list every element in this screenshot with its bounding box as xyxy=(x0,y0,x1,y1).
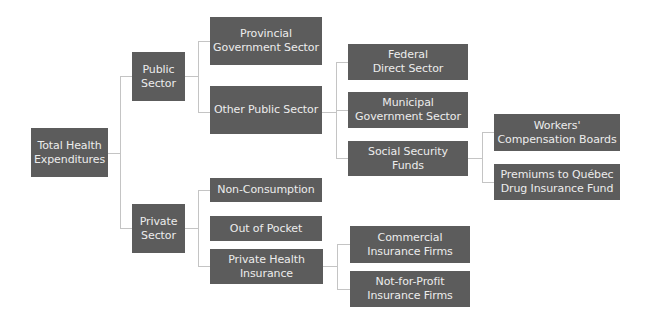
node-municipal-government-sector: Municipal Government Sector xyxy=(348,92,468,128)
node-label: Total Health Expenditures xyxy=(34,139,105,167)
node-premiums-quebec-drug-insurance-fund: Premiums to Québec Drug Insurance Fund xyxy=(494,164,620,200)
connector xyxy=(198,41,210,42)
node-social-security-funds: Social Security Funds xyxy=(348,141,468,176)
node-label: Commercial Insurance Firms xyxy=(367,231,452,259)
node-workers-compensation-boards: Workers' Compensation Boards xyxy=(494,114,620,151)
connector xyxy=(337,244,338,290)
node-label: Federal Direct Sector xyxy=(373,48,444,76)
node-label: Municipal Government Sector xyxy=(355,96,461,124)
connector xyxy=(322,112,337,113)
node-label: Provincial Government Sector xyxy=(213,27,319,55)
connector xyxy=(337,244,350,245)
connector xyxy=(198,266,210,267)
connector xyxy=(337,289,350,290)
connector xyxy=(185,228,199,229)
node-other-public-sector: Other Public Sector xyxy=(210,86,322,134)
node-label: Other Public Sector xyxy=(214,103,318,117)
connector xyxy=(120,76,121,229)
node-label: Premiums to Québec Drug Insurance Fund xyxy=(500,168,613,196)
node-private-health-insurance: Private Health Insurance xyxy=(210,249,323,284)
node-label: Out of Pocket xyxy=(230,222,302,236)
connector xyxy=(120,228,132,229)
connector xyxy=(336,110,348,111)
health-expenditure-tree-diagram: Total Health Expenditures Public Sector … xyxy=(0,0,649,323)
node-label: Private Sector xyxy=(140,215,178,243)
node-label: Public Sector xyxy=(141,63,176,91)
node-label: Workers' Compensation Boards xyxy=(497,119,616,147)
connector xyxy=(120,76,132,77)
connector xyxy=(482,182,494,183)
node-label: Non-Consumption xyxy=(217,183,314,197)
node-out-of-pocket: Out of Pocket xyxy=(210,216,322,241)
node-label: Not-for-Profit Insurance Firms xyxy=(367,275,452,303)
node-label: Social Security Funds xyxy=(351,145,465,173)
connector xyxy=(198,190,210,191)
node-public-sector: Public Sector xyxy=(132,52,185,101)
node-not-for-profit-insurance-firms: Not-for-Profit Insurance Firms xyxy=(350,271,470,307)
connector xyxy=(198,112,210,113)
connector xyxy=(482,132,483,183)
connector xyxy=(468,158,483,159)
connector xyxy=(198,41,199,113)
connector xyxy=(482,132,494,133)
connector xyxy=(198,190,199,267)
node-federal-direct-sector: Federal Direct Sector xyxy=(348,44,468,80)
connector xyxy=(323,266,338,267)
connector xyxy=(336,62,348,63)
node-non-consumption: Non-Consumption xyxy=(210,178,322,202)
node-provincial-government-sector: Provincial Government Sector xyxy=(210,17,322,65)
connector xyxy=(185,76,199,77)
node-total-health-expenditures: Total Health Expenditures xyxy=(31,128,108,177)
connector xyxy=(336,158,348,159)
node-commercial-insurance-firms: Commercial Insurance Firms xyxy=(350,226,470,263)
node-private-sector: Private Sector xyxy=(132,204,185,253)
node-label: Private Health Insurance xyxy=(228,253,305,281)
